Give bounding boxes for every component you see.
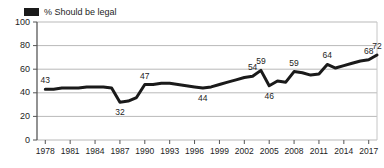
data-point-label: 32	[111, 108, 129, 117]
x-axis-tick-label: 2005	[255, 147, 283, 156]
y-axis-tick-label: 0	[2, 136, 30, 145]
data-point-label: 46	[260, 92, 278, 101]
x-axis-tick-label: 1999	[205, 147, 233, 156]
data-point-label: 44	[194, 94, 212, 103]
y-axis-tick-label: 60	[2, 65, 30, 74]
x-axis-tick-label: 1990	[131, 147, 159, 156]
x-axis-tick-label: 2017	[355, 147, 383, 156]
y-axis-tick-label: 20	[2, 112, 30, 121]
y-axis-tick-label: 100	[2, 18, 30, 27]
data-point-label: 59	[285, 59, 303, 68]
x-axis-tick-label: 2008	[280, 147, 308, 156]
data-point-label: 72	[368, 42, 384, 51]
plot-frame	[37, 22, 377, 140]
y-axis-tick-label: 40	[2, 88, 30, 97]
data-point-label: 47	[136, 72, 154, 81]
gridlines	[37, 22, 377, 140]
x-axis-tick-label: 1996	[181, 147, 209, 156]
data-point-label: 64	[318, 51, 336, 60]
x-axis-tick-label: 2002	[230, 147, 258, 156]
x-axis-tick-label: 1981	[56, 147, 84, 156]
data-point-label: 59	[252, 57, 270, 66]
x-axis-tick-label: 1984	[81, 147, 109, 156]
y-axis-tick-label: 80	[2, 41, 30, 50]
x-axis-tick-label: 2011	[305, 147, 333, 156]
x-axis-tick-label: 1978	[31, 147, 59, 156]
plot-area	[0, 0, 384, 168]
x-axis-tick-label: 2014	[330, 147, 358, 156]
x-axis-ticks	[45, 140, 368, 144]
x-axis-tick-label: 1987	[106, 147, 134, 156]
x-axis-tick-label: 1993	[156, 147, 184, 156]
data-point-label: 43	[36, 76, 54, 85]
line-chart: % Should be legal 100806040200 197819811…	[0, 0, 384, 168]
